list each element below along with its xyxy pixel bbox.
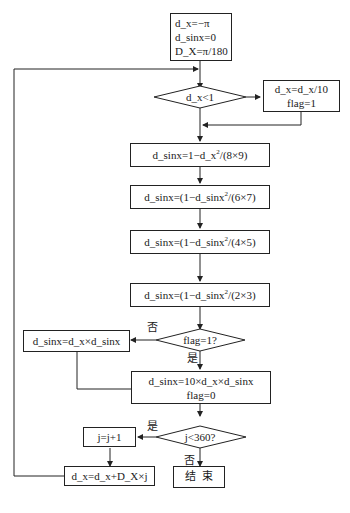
no-flag-text: d_sinx=d_x×d_sinx bbox=[33, 334, 121, 348]
increment-j-box: j=j+1 bbox=[83, 427, 136, 447]
branch-flag-yes: 是 bbox=[187, 353, 198, 365]
init-line-3: D_X=π/180 bbox=[175, 44, 228, 58]
branch-j-yes: 是 bbox=[147, 421, 158, 433]
step-8x9-text: d_sinx=1−d_x2/(8×9) bbox=[153, 148, 248, 162]
increment-j-text: j=j+1 bbox=[97, 430, 121, 444]
init-box: d_x=−π d_sinx=0 D_X=π/180 bbox=[170, 13, 232, 61]
init-line-2: d_sinx=0 bbox=[175, 30, 216, 44]
decision-dx-lt-1: d_x<1 bbox=[170, 91, 230, 103]
yes-flag-line-1: d_sinx=10×d_x×d_sinx bbox=[149, 374, 254, 388]
step-2x3-box: d_sinx=(1−d_sinx2/(2×3) bbox=[130, 283, 270, 307]
no-flag-box: d_sinx=d_x×d_sinx bbox=[23, 330, 130, 352]
end-text: 结 束 bbox=[185, 470, 214, 484]
branch-flag-no: 否 bbox=[147, 322, 158, 334]
init-line-1: d_x=−π bbox=[175, 16, 209, 30]
step-4x5-text: d_sinx=(1−d_sinx2/(4×5) bbox=[144, 235, 255, 249]
step-6x7-box: d_sinx=(1−d_sinx2/(6×7) bbox=[130, 185, 270, 209]
step-6x7-text: d_sinx=(1−d_sinx2/(6×7) bbox=[144, 190, 255, 204]
update-dx-text: d_x=d_x+D_X×j bbox=[71, 469, 147, 483]
step-2x3-text: d_sinx=(1−d_sinx2/(2×3) bbox=[144, 288, 255, 302]
decision-j: j<360? bbox=[170, 431, 230, 443]
scale-line-1: d_x=d_x/10 bbox=[275, 82, 328, 96]
scale-line-2: flag=1 bbox=[287, 96, 316, 110]
step-4x5-box: d_sinx=(1−d_sinx2/(4×5) bbox=[130, 230, 270, 254]
update-dx-box: d_x=d_x+D_X×j bbox=[64, 466, 155, 486]
decision-flag: flag=1? bbox=[170, 334, 230, 346]
scale-dx-box: d_x=d_x/10 flag=1 bbox=[263, 80, 340, 112]
yes-flag-line-2: flag=0 bbox=[187, 388, 216, 402]
step-8x9-box: d_sinx=1−d_x2/(8×9) bbox=[130, 143, 270, 167]
end-box: 结 束 bbox=[173, 466, 225, 488]
yes-flag-box: d_sinx=10×d_x×d_sinx flag=0 bbox=[131, 371, 271, 404]
